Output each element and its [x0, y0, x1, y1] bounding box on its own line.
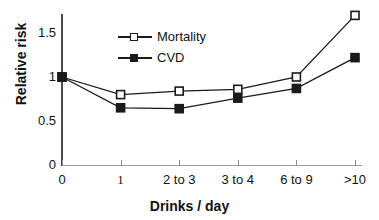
data-point-cvd-1 — [117, 104, 125, 112]
legend-marker-open-square-icon — [118, 31, 152, 43]
series-line-mortality — [62, 15, 355, 94]
legend-marker-filled-square-icon — [118, 52, 152, 64]
data-point-cvd--10 — [351, 54, 359, 62]
x-axis-title: Drinks / day — [0, 198, 379, 214]
legend-item-mortality: Mortality — [118, 26, 206, 47]
data-point-mortality-1 — [117, 91, 125, 99]
series-line-cvd — [62, 58, 355, 109]
legend-item-cvd: CVD — [118, 47, 206, 68]
legend-label-mortality: Mortality — [157, 29, 206, 44]
data-point-mortality-6-to-9 — [292, 73, 300, 81]
relative-risk-line-chart: Relative risk 00.511.5 012 to 33 to 46 t… — [0, 0, 379, 220]
data-point-cvd-2-to-3 — [175, 105, 183, 113]
data-point-mortality--10 — [351, 11, 359, 19]
data-point-cvd-6-to-9 — [292, 84, 300, 92]
chart-legend: Mortality CVD — [118, 26, 206, 68]
data-point-mortality-2-to-3 — [175, 87, 183, 95]
data-point-mortality-3-to-4 — [234, 85, 242, 93]
data-point-cvd-0 — [58, 73, 66, 81]
legend-label-cvd: CVD — [157, 50, 184, 65]
data-point-cvd-3-to-4 — [234, 94, 242, 102]
